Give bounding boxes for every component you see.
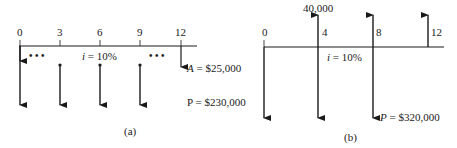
interest-value-a: = 10% — [88, 50, 117, 62]
dot-a-3 — [58, 63, 61, 66]
annuity-value: = $25,000 — [196, 62, 241, 74]
interest-rate-b: i = 10% — [327, 52, 362, 63]
interest-value-b: = 10% — [333, 51, 362, 63]
period-label-b-4: 4 — [322, 27, 328, 38]
receipt-value-b: 40,000 — [303, 3, 333, 14]
interest-rate-a: i = 10% — [82, 51, 117, 62]
period-label-a-9: 9 — [137, 27, 143, 38]
annuity-var: A — [187, 62, 194, 74]
period-label-b-8: 8 — [376, 27, 382, 38]
annuity-label: A = $25,000 — [187, 63, 241, 74]
ellipsis-right: • • • — [149, 50, 165, 61]
present-var-b: P — [380, 111, 387, 123]
ellipsis-left: • • • — [29, 50, 45, 61]
present-value-b: P = $320,000 — [380, 112, 440, 123]
period-label-a-3: 3 — [57, 27, 63, 38]
cash-flow-diagrams — [0, 0, 457, 148]
period-label-a-12: 12 — [175, 27, 186, 38]
interest-var-a: i — [82, 50, 85, 62]
present-amount-b: = $320,000 — [389, 111, 439, 123]
dot-a-6 — [98, 63, 101, 66]
interest-var-b: i — [327, 51, 330, 63]
period-label-b-12: 12 — [431, 27, 442, 38]
period-label-a-6: 6 — [97, 27, 103, 38]
dot-a-9 — [138, 63, 141, 66]
diagram-b — [264, 15, 444, 118]
present-value-a: P = $230,000 — [187, 97, 246, 108]
period-label-a-0: 0 — [17, 27, 23, 38]
caption-a: (a) — [124, 126, 136, 137]
caption-b: (b) — [344, 132, 357, 143]
period-label-b-0: 0 — [262, 27, 268, 38]
